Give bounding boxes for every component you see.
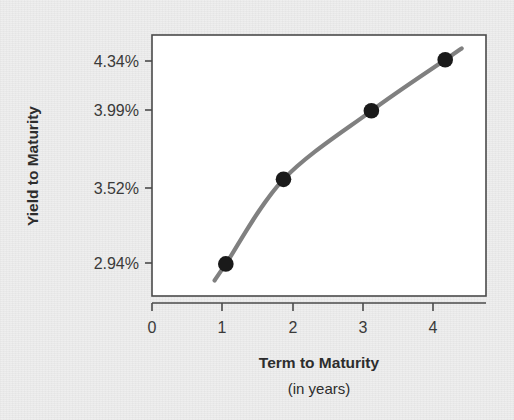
- y-tick-label-1: 2.94%: [94, 255, 139, 272]
- yield-curve-chart: 4.34% 3.99% 3.52% 2.94% 0 1 2 3 4 Term t…: [0, 0, 514, 420]
- x-tick-label-0: 0: [148, 319, 157, 336]
- y-tick-label-3: 3.99%: [94, 102, 139, 119]
- y-tick-label-2: 3.52%: [94, 180, 139, 197]
- data-point-0: [218, 256, 234, 272]
- y-tick-label-4: 4.34%: [94, 53, 139, 70]
- x-tick-label-3: 3: [359, 319, 368, 336]
- plot-area-background: [152, 35, 486, 296]
- x-tick-label-2: 2: [289, 319, 298, 336]
- x-axis-subtitle: (in years): [288, 380, 351, 397]
- yield-curve-figure: 4.34% 3.99% 3.52% 2.94% 0 1 2 3 4 Term t…: [0, 0, 514, 420]
- x-axis-title: Term to Maturity: [259, 354, 380, 371]
- y-axis-title: Yield to Maturity: [24, 106, 41, 226]
- data-point-3: [437, 52, 453, 68]
- data-point-2: [364, 103, 380, 119]
- x-tick-label-4: 4: [429, 319, 438, 336]
- data-point-1: [276, 172, 292, 188]
- x-tick-label-1: 1: [218, 319, 227, 336]
